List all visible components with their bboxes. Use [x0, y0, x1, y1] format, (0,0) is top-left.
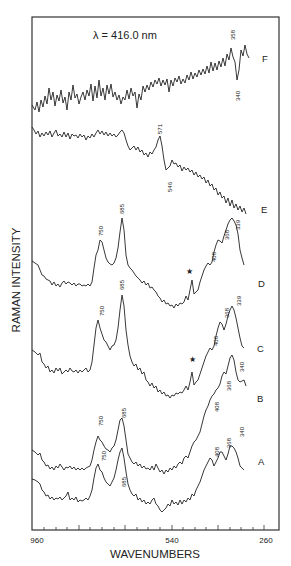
- peak-label-f-358: 358: [230, 29, 236, 40]
- x-tick-960: 960: [30, 536, 44, 545]
- peak-label-a-408: 408: [214, 446, 220, 457]
- x-tick-260: 260: [259, 536, 273, 545]
- peak-label-c-408: 408: [213, 335, 219, 346]
- trace-e: [32, 127, 246, 214]
- x-axis-label: WAVENUMBERS: [110, 548, 200, 560]
- trace-label-b: B: [257, 393, 263, 404]
- raman-spectra-chart: 960 540 260 WAVENUMBERS RAMAN INTENSITY …: [0, 0, 291, 566]
- x-axis-ticks: [44, 525, 264, 530]
- trace-label-c: C: [257, 343, 264, 354]
- peak-label-d-star: ★: [186, 267, 193, 276]
- trace-f: [32, 45, 249, 112]
- peak-label-b-368: 368: [226, 380, 232, 391]
- trace-a: [32, 446, 244, 512]
- peak-label-b-685: 685: [121, 407, 127, 418]
- y-axis-label: RAMAN INTENSITY: [10, 227, 22, 332]
- peak-label-e-546: 546: [167, 181, 173, 192]
- trace-d: [32, 218, 244, 308]
- trace-label-d: D: [258, 278, 265, 289]
- peak-label-c-368: 368: [224, 307, 230, 318]
- peak-label-a-750: 750: [101, 450, 107, 461]
- peak-label-c-339: 339: [236, 295, 242, 306]
- x-tick-540: 540: [165, 536, 179, 545]
- peak-label-a-685: 685: [121, 476, 127, 487]
- peak-label-c-750: 750: [99, 305, 105, 316]
- peak-label-a-368: 368: [226, 437, 232, 448]
- peak-label-d-685: 685: [119, 203, 125, 214]
- peak-label-d-368: 368: [224, 229, 230, 240]
- peak-label-b-340: 340: [239, 361, 245, 372]
- trace-label-f: F: [262, 53, 268, 64]
- peak-label-c-685: 685: [119, 279, 125, 290]
- trace-label-a: A: [258, 456, 265, 467]
- peak-label-b-750: 750: [98, 415, 104, 426]
- peak-label-e-571: 571: [157, 123, 163, 134]
- peak-label-c-star: ★: [189, 355, 196, 364]
- trace-label-e: E: [261, 204, 267, 215]
- peak-label-f-340: 340: [235, 90, 241, 101]
- peak-label-b-408: 408: [214, 401, 220, 412]
- peak-label-a-340: 340: [239, 426, 245, 437]
- peak-label-d-750: 750: [98, 225, 104, 236]
- peak-label-d-408: 408: [211, 251, 217, 262]
- chart-title: λ = 416.0 nm: [93, 29, 157, 41]
- peak-label-d-339: 339: [235, 219, 241, 230]
